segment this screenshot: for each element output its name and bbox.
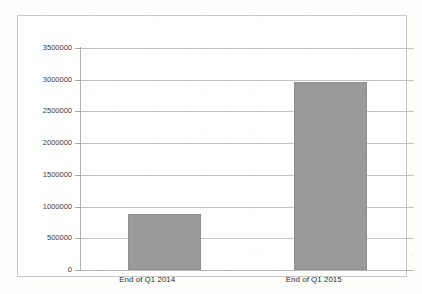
chart-frame: 3500000300000025000002000000150000010000… <box>17 15 407 277</box>
y-axis-tick-label: 3000000 <box>18 76 72 84</box>
gridline <box>81 48 414 49</box>
y-axis-tick <box>75 270 80 271</box>
gridline <box>81 270 414 271</box>
y-axis-tick-label: 1500000 <box>18 171 72 179</box>
bar <box>128 214 201 270</box>
y-axis-tick <box>75 48 80 49</box>
y-axis-tick-labels: 3500000300000025000002000000150000010000… <box>18 16 72 294</box>
y-axis-tick <box>75 175 80 176</box>
y-axis-tick <box>75 207 80 208</box>
y-axis-tick <box>75 111 80 112</box>
x-axis-category-label: End of Q1 2015 <box>231 275 398 285</box>
y-axis-tick <box>75 238 80 239</box>
y-axis-tick-label: 0 <box>18 266 72 274</box>
x-axis-category-label: End of Q1 2014 <box>64 275 231 285</box>
plot-area <box>81 48 414 270</box>
y-axis-tick <box>75 143 80 144</box>
y-axis-tick-label: 3500000 <box>18 44 72 52</box>
y-axis-tick-label: 2000000 <box>18 139 72 147</box>
gridline <box>81 80 414 81</box>
y-axis-tick-label: 500000 <box>18 234 72 242</box>
y-axis-tick-label: 2500000 <box>18 107 72 115</box>
y-axis-tick-label: 1000000 <box>18 203 72 211</box>
bar <box>294 82 367 270</box>
y-axis-tick <box>75 80 80 81</box>
